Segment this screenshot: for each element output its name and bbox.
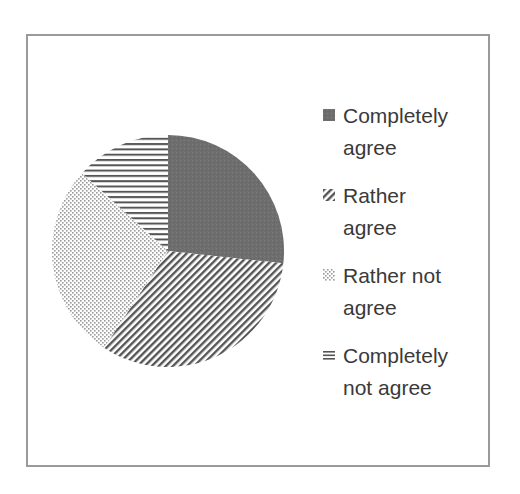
legend-label: agree bbox=[343, 132, 493, 164]
legend-item-rather-not-agree: Rather not agree bbox=[323, 260, 493, 324]
legend-item-rather-agree: Rather agree bbox=[323, 180, 493, 244]
diagonal-hatch-icon bbox=[323, 189, 335, 201]
legend-label: Completely bbox=[343, 340, 493, 372]
slice-completely-agree bbox=[168, 135, 284, 263]
pie-slices bbox=[52, 135, 284, 367]
horizontal-lines-icon bbox=[323, 349, 335, 361]
legend-item-completely-not-agree: Completely not agree bbox=[323, 340, 493, 404]
dotted-pattern-icon bbox=[323, 269, 335, 281]
legend-label: agree bbox=[343, 292, 493, 324]
legend-label: Rather not bbox=[343, 260, 493, 292]
legend-label: Rather bbox=[343, 180, 493, 212]
legend-item-completely-agree: Completely agree bbox=[323, 100, 493, 164]
legend-label: agree bbox=[343, 212, 493, 244]
legend: Completely agree Rather agree Rather not… bbox=[323, 100, 493, 420]
legend-label: not agree bbox=[343, 372, 493, 404]
solid-square-icon bbox=[323, 109, 335, 121]
legend-label: Completely bbox=[343, 100, 493, 132]
